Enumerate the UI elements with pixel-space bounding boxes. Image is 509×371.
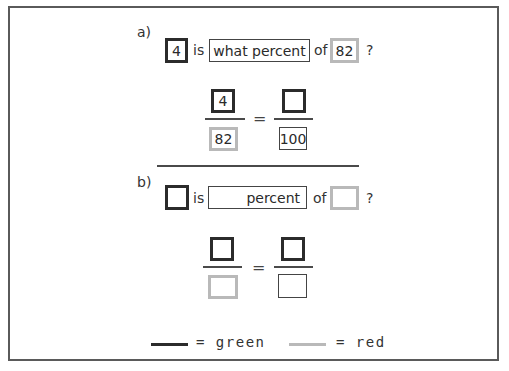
part-a-question-mark: ? [366,42,373,58]
legend-green-line [151,343,188,346]
part-b-equals: = [252,260,265,276]
part-a-red-box: 82 [330,38,359,63]
part-b-red-box [330,186,359,210]
part-b-right-fraction-bar [274,266,313,268]
part-b-percent-text: percent [246,190,300,206]
part-a-left-fraction-bar [205,118,245,120]
legend-green-label: = green [196,334,266,350]
part-a-left-denominator-box: 82 [209,127,238,151]
part-a-right-numerator-box [282,89,306,113]
part-a-left-numerator-box: 4 [211,89,235,113]
part-a-right-fraction-bar [274,118,313,120]
part-a-equals: = [253,111,266,127]
part-b-word-of: of [313,190,327,206]
part-a-left-denominator: 82 [215,131,233,147]
part-a-label: a) [137,24,151,40]
part-b-left-denominator-box [208,275,238,299]
part-b-left-numerator-box [210,237,234,261]
part-b-label: b) [137,174,151,190]
part-b-left-fraction-bar [203,266,242,268]
part-b-percent-box: percent [208,186,307,209]
part-a-percent-box: what percent [209,39,310,62]
part-a-percent-text: what percent [213,43,305,59]
part-a-box2-value: 82 [336,43,354,59]
part-a-box1-value: 4 [172,43,181,59]
part-a-green-box: 4 [165,38,188,63]
part-a-word-is: is [193,42,204,58]
legend-red-label: = red [336,334,386,350]
part-b-right-numerator-box [281,237,305,261]
part-b-right-denominator-box [278,274,307,298]
part-b-green-box [165,185,189,210]
legend-red-line [289,343,326,346]
part-a-right-denominator: 100 [280,131,307,147]
part-a-right-denominator-box: 100 [279,127,307,150]
part-a-word-of: of [314,42,328,58]
part-b-word-is: is [193,190,204,206]
part-b-question-mark: ? [366,190,373,206]
part-a-left-numerator: 4 [219,93,228,109]
section-divider [157,165,359,167]
